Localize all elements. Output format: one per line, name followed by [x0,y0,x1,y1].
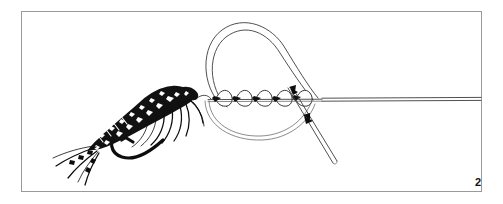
figure-border [21,11,482,192]
figure-root: 2 [0,0,503,204]
figure-step-number: 2 [475,177,481,188]
